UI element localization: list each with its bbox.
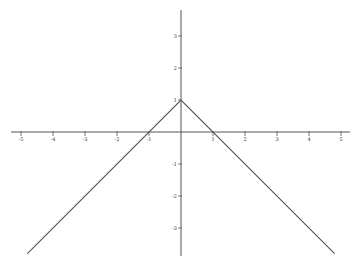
x-tick-label: -2 [115,136,120,142]
x-tick-label: -1 [147,136,152,142]
y-tick-label: 1 [174,97,177,103]
y-tick-label: -1 [172,161,177,167]
x-tick: 5 [339,131,342,142]
x-tick-label: 2 [243,136,246,142]
x-tick: -5 [19,131,24,142]
function-plot: -5-4-3-2-112345 321-1-2-3 [0,0,362,273]
x-tick-label: 3 [275,136,278,142]
y-tick-label: -2 [172,193,177,199]
y-tick-label: 3 [174,33,177,39]
x-tick-label: -3 [83,136,88,142]
x-tick: -4 [51,131,56,142]
x-tick: -2 [115,131,120,142]
x-tick-label: 4 [307,136,310,142]
y-tick-label: 2 [174,65,177,71]
x-tick-label: 1 [211,136,214,142]
x-tick: 4 [307,131,310,142]
x-tick: 2 [243,131,246,142]
y-tick-label: -3 [172,225,177,231]
x-tick-label: -4 [51,136,56,142]
x-tick-label: -5 [19,136,24,142]
x-tick: -3 [83,131,88,142]
x-tick-label: 5 [339,136,342,142]
x-tick: 3 [275,131,278,142]
